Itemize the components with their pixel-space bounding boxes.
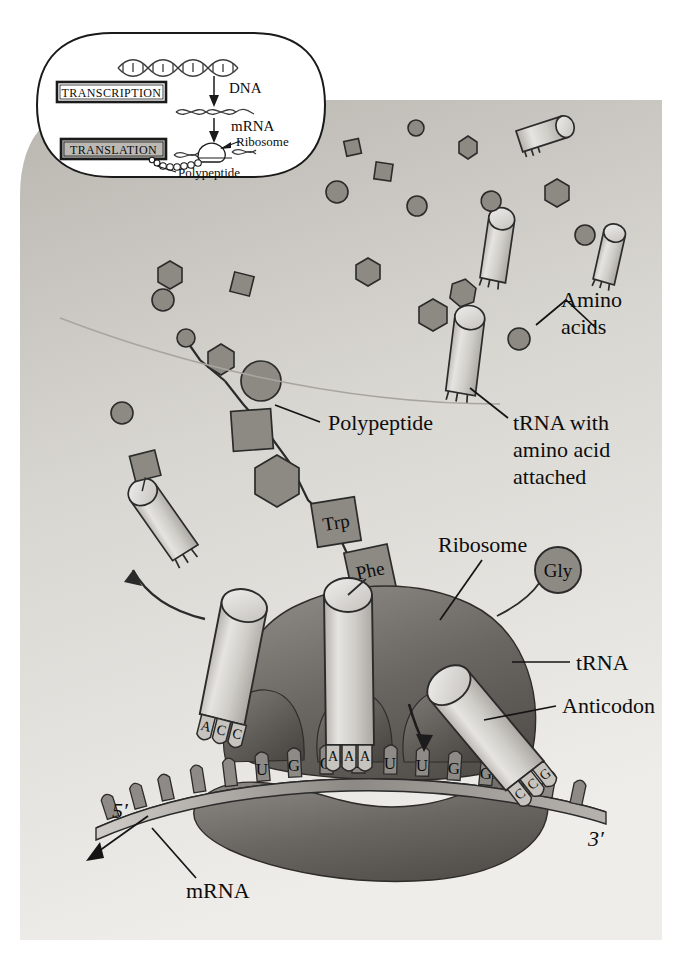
figure-canvas: Trp Phe <box>0 0 682 968</box>
label-amino-acids-line1: Amino <box>561 287 622 312</box>
polypeptide-residue <box>231 409 274 452</box>
free-amino-acid-circle <box>575 225 595 245</box>
inset-label-dna: DNA <box>229 80 262 96</box>
label-mrna: mRNA <box>186 878 250 903</box>
free-amino-acid-hexagon <box>356 258 380 286</box>
label-three-prime: 3′ <box>587 826 605 851</box>
trna-p-site: A A A <box>324 578 374 771</box>
label-trna-with-amino-acid-line1: tRNA with <box>513 410 609 435</box>
anticodon-base: A <box>344 749 355 764</box>
inset-label-mrna: mRNA <box>231 118 275 134</box>
mrna-base: U <box>384 754 396 773</box>
free-amino-acid-circle <box>152 289 174 311</box>
anticodon-base: A <box>328 749 339 764</box>
free-amino-acid-hexagon <box>459 136 477 159</box>
free-amino-acid-hexagon <box>545 179 569 207</box>
label-trna: tRNA <box>576 650 629 675</box>
free-amino-acid-square <box>344 138 362 156</box>
label-ribosome: Ribosome <box>438 532 527 557</box>
inset-step-label: TRANSCRIPTION <box>62 86 162 100</box>
label-trna-with-amino-acid-line3: attached <box>513 464 586 489</box>
label-polypeptide: Polypeptide <box>328 410 433 435</box>
label-anticodon: Anticodon <box>562 693 655 718</box>
free-amino-acid-circle <box>326 181 348 203</box>
polypeptide-residue <box>177 329 195 347</box>
inset-overview: DNA TRANSCRIPTION mRNA TRANSLATION <box>37 33 325 180</box>
free-amino-acid-circle <box>408 120 424 136</box>
mrna-base: U <box>256 760 268 779</box>
free-amino-acid-hexagon <box>419 299 447 331</box>
free-amino-acid-circle <box>508 328 530 350</box>
free-amino-acid-square <box>230 272 254 296</box>
mrna-base: G <box>448 759 460 778</box>
free-amino-acid-circle <box>111 402 133 424</box>
amino-acid-label-gly: Gly <box>544 560 573 581</box>
label-trna-with-amino-acid-line2: amino acid <box>513 437 610 462</box>
mrna-base: G <box>288 756 300 775</box>
anticodon-base: A <box>360 749 371 764</box>
inset-step-transcription: TRANSCRIPTION <box>57 82 166 102</box>
mrna-base: U <box>416 756 428 775</box>
inset-step-translation: TRANSLATION <box>61 139 166 159</box>
free-amino-acid-square <box>374 162 393 181</box>
free-amino-acid-circle <box>407 196 427 216</box>
inset-step-label: TRANSLATION <box>70 143 157 157</box>
inset-label-ribosome: Ribosome <box>236 134 289 149</box>
label-amino-acids-line2: acids <box>561 314 606 339</box>
free-amino-acid-hexagon <box>158 261 182 289</box>
label-five-prime: 5′ <box>112 798 129 823</box>
inset-label-polypeptide: Polypeptide <box>178 165 240 180</box>
translation-diagram: Trp Phe <box>0 0 682 968</box>
residue-label-trp: Trp <box>321 510 351 535</box>
